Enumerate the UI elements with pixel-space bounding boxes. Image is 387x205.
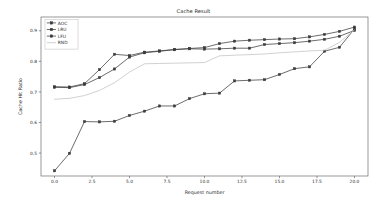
data-point-marker xyxy=(53,86,55,88)
legend-swatch-marker-lru xyxy=(50,28,53,31)
data-point-marker xyxy=(98,68,100,70)
x-tick-label: 17.5 xyxy=(312,179,322,184)
data-point-marker xyxy=(218,42,220,44)
data-point-marker xyxy=(143,52,145,54)
data-point-marker xyxy=(128,56,130,58)
y-tick-label: 0.7 xyxy=(30,90,37,95)
x-tick-label: 15.0 xyxy=(275,179,285,184)
x-tick-label: 20.0 xyxy=(350,179,360,184)
x-tick-label: 12.5 xyxy=(237,179,247,184)
data-point-marker xyxy=(173,105,175,107)
chart-figure: Cache Result 0.02.55.07.510.012.515.017.… xyxy=(0,0,387,205)
data-point-marker xyxy=(308,36,310,38)
data-point-marker xyxy=(308,40,310,42)
data-point-marker xyxy=(293,42,295,44)
y-tick-label: 0.5 xyxy=(30,151,37,156)
y-tick-label: 0.6 xyxy=(30,120,37,125)
data-point-marker xyxy=(188,97,190,99)
legend-swatch-marker-lfu xyxy=(50,35,53,38)
data-point-marker xyxy=(248,79,250,81)
data-point-marker xyxy=(233,40,235,42)
x-tick-label: 2.5 xyxy=(89,179,96,184)
data-point-marker xyxy=(278,42,280,44)
data-point-marker xyxy=(68,152,70,154)
data-point-marker xyxy=(218,48,220,50)
y-tick-label: 0.8 xyxy=(30,59,37,64)
data-point-marker xyxy=(173,49,175,51)
legend-label-lfu: LFU xyxy=(58,34,66,39)
data-point-marker xyxy=(203,48,205,50)
legend-swatch-marker-aoc xyxy=(50,22,53,25)
data-point-marker xyxy=(143,110,145,112)
x-tick-label: 10.0 xyxy=(200,179,210,184)
data-point-marker xyxy=(158,105,160,107)
data-point-marker xyxy=(233,80,235,82)
data-point-marker xyxy=(233,47,235,49)
data-point-marker xyxy=(128,114,130,116)
data-point-marker xyxy=(338,46,340,48)
data-point-marker xyxy=(68,86,70,88)
data-point-marker xyxy=(248,39,250,41)
x-axis-label: Request number xyxy=(185,190,225,195)
data-point-marker xyxy=(83,120,85,122)
data-point-marker xyxy=(278,38,280,40)
data-point-marker xyxy=(113,68,115,70)
data-point-marker xyxy=(248,47,250,49)
data-point-marker xyxy=(338,35,340,37)
data-point-marker xyxy=(278,73,280,75)
data-point-marker xyxy=(293,68,295,70)
data-point-marker xyxy=(263,38,265,40)
legend-label-lru: LRU xyxy=(58,27,67,32)
data-point-marker xyxy=(98,76,100,78)
data-point-marker xyxy=(308,66,310,68)
page-title: Cache Result xyxy=(177,8,211,14)
data-point-marker xyxy=(53,170,55,172)
data-point-marker xyxy=(323,38,325,40)
data-point-marker xyxy=(293,38,295,40)
data-point-marker xyxy=(338,30,340,32)
legend-label-aoc: AOC xyxy=(58,21,67,26)
data-point-marker xyxy=(113,120,115,122)
data-point-marker xyxy=(323,33,325,35)
legend-label-rnd: RND xyxy=(58,40,68,45)
y-tick-label: 0.9 xyxy=(30,28,37,33)
data-point-marker xyxy=(83,83,85,85)
data-point-marker xyxy=(158,50,160,52)
data-point-marker xyxy=(218,92,220,94)
data-point-marker xyxy=(98,121,100,123)
x-tick-label: 5.0 xyxy=(126,179,133,184)
data-point-marker xyxy=(263,79,265,81)
data-point-marker xyxy=(113,53,115,55)
legend: AOCLRULFURND xyxy=(45,20,78,50)
data-point-marker xyxy=(188,48,190,50)
cache-result-line-chart: Cache Result 0.02.55.07.510.012.515.017.… xyxy=(0,0,387,205)
data-point-marker xyxy=(203,93,205,95)
x-tick-label: 0.0 xyxy=(51,179,58,184)
data-point-marker xyxy=(263,43,265,45)
y-axis-label: Cache Hit Ratio xyxy=(18,78,23,115)
x-tick-label: 7.5 xyxy=(164,179,171,184)
